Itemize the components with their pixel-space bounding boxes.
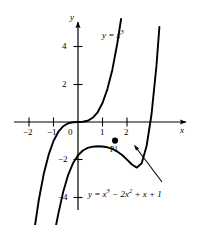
x-tick-label-1: 1 bbox=[100, 128, 105, 137]
annotation-arrow bbox=[135, 146, 163, 183]
x-tick-label-2: 2 bbox=[124, 128, 129, 137]
cubic-shifted-tail: + x + 1 bbox=[132, 189, 162, 199]
curve-label-basic-exponent: 3 bbox=[121, 28, 124, 35]
cubic-shifted-mid: − 2x bbox=[110, 189, 129, 199]
y-tick-label-2: 2 bbox=[62, 80, 67, 89]
cubic-shifted-lead: y = x bbox=[88, 189, 107, 199]
cubic-functions-figure: −2 −1 0 1 2 4 2 −2 −4 x y y = x3 y = x3 … bbox=[0, 0, 207, 225]
x-tick-label-neg1: −1 bbox=[47, 128, 57, 137]
y-tick-label-4: 4 bbox=[62, 42, 67, 51]
curve-label-y-equals-x-cubed: y = x3 bbox=[102, 29, 124, 40]
x-axis-label: x bbox=[180, 126, 184, 135]
point-p1-marker bbox=[112, 138, 118, 144]
x-tick-label-origin: 0 bbox=[68, 128, 73, 137]
curve-label-cubic-shifted: y = x3 − 2x2 + x + 1 bbox=[88, 188, 162, 199]
y-tick-label-neg4: −4 bbox=[58, 193, 68, 202]
x-tick-label-neg2: −2 bbox=[23, 128, 33, 137]
y-tick-label-neg2: −2 bbox=[58, 155, 68, 164]
point-label-p1: P1 bbox=[110, 146, 118, 154]
curve-label-basic-text: y = x bbox=[102, 30, 121, 40]
y-axis-label: y bbox=[70, 13, 74, 22]
